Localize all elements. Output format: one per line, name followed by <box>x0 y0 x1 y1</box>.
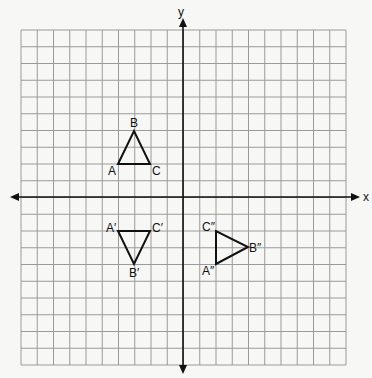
vertex-label-c-double-prime: C″ <box>202 220 216 234</box>
vertex-label-b: B <box>130 116 138 130</box>
vertex-label-b-prime: B′ <box>129 266 140 280</box>
vertex-label-a-double-prime: A″ <box>202 264 215 278</box>
x-axis: x <box>10 190 369 204</box>
y-axis: y <box>178 5 187 374</box>
coordinate-plane: x y A B C A′ C′ B′ C″ B″ A″ <box>0 0 372 378</box>
y-axis-label: y <box>178 5 184 19</box>
y-axis-down-arrow-icon <box>179 365 187 374</box>
x-axis-label: x <box>363 190 369 204</box>
vertex-label-c: C <box>152 164 161 178</box>
vertex-label-a-prime: A′ <box>106 221 117 235</box>
x-axis-left-arrow-icon <box>10 193 19 201</box>
vertex-label-b-double-prime: B″ <box>249 241 262 255</box>
vertex-label-a: A <box>108 164 116 178</box>
y-axis-up-arrow-icon <box>179 18 187 27</box>
x-axis-right-arrow-icon <box>351 193 360 201</box>
vertex-label-c-prime: C′ <box>152 221 164 235</box>
